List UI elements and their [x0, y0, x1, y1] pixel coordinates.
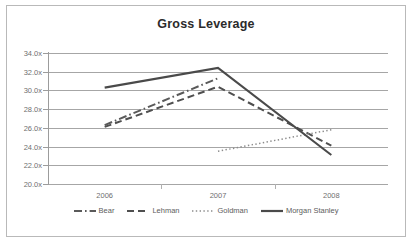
y-axis-tick — [43, 72, 49, 73]
legend-swatch-dash-dot-icon — [74, 207, 96, 215]
x-axis-tick — [275, 184, 276, 189]
y-axis-labels: 34.0x32.0x30.0x28.0x26.0x24.0x22.0x20.0x — [7, 53, 42, 184]
legend-item-goldman[interactable]: Goldman — [192, 206, 247, 215]
legend-swatch-solid-icon — [261, 207, 283, 215]
plot-area — [48, 53, 388, 184]
x-axis-tick-label: 2006 — [96, 191, 113, 200]
series-line-goldman — [218, 130, 331, 152]
legend-item-bear[interactable]: Bear — [74, 206, 115, 215]
legend-label: Lehman — [152, 206, 179, 215]
x-axis-tick — [161, 184, 162, 189]
y-axis-tick — [43, 109, 49, 110]
chart-frame: Gross Leverage 34.0x32.0x30.0x28.0x26.0x… — [6, 5, 406, 237]
y-axis-tick-label: 28.0x — [24, 105, 42, 114]
legend-item-lehman[interactable]: Lehman — [127, 206, 179, 215]
legend-label: Bear — [99, 206, 115, 215]
legend-label: Goldman — [217, 206, 247, 215]
y-axis-tick — [43, 90, 49, 91]
legend-item-morgan-stanley[interactable]: Morgan Stanley — [261, 206, 339, 215]
chart-legend: BearLehmanGoldmanMorgan Stanley — [7, 206, 405, 215]
gridline — [48, 184, 388, 185]
legend-swatch-dashed-icon — [127, 207, 149, 215]
y-axis-tick — [43, 184, 49, 185]
y-axis-tick-label: 30.0x — [24, 86, 42, 95]
y-axis-tick — [43, 165, 49, 166]
x-axis-tick-label: 2008 — [323, 191, 340, 200]
y-axis-tick-label: 24.0x — [24, 142, 42, 151]
legend-swatch-dotted-icon — [192, 207, 214, 215]
y-axis-tick — [43, 147, 49, 148]
y-axis-tick — [43, 53, 49, 54]
legend-label: Morgan Stanley — [286, 206, 339, 215]
chart-title: Gross Leverage — [7, 17, 405, 31]
series-layer — [48, 53, 388, 184]
y-axis-tick-label: 34.0x — [24, 49, 42, 58]
y-axis-tick-label: 26.0x — [24, 123, 42, 132]
y-axis-tick — [43, 128, 49, 129]
y-axis-tick-label: 32.0x — [24, 67, 42, 76]
y-axis-tick-label: 22.0x — [24, 161, 42, 170]
y-axis-tick-label: 20.0x — [24, 180, 42, 189]
x-axis-tick-label: 2007 — [210, 191, 227, 200]
